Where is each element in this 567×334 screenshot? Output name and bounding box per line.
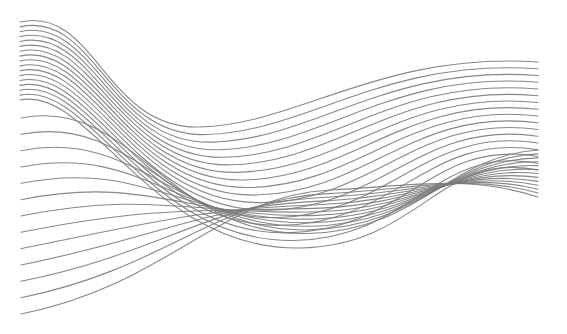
wave-line [20,20,538,127]
wave-line [21,147,538,226]
wave-line [21,178,538,248]
wave-line [20,55,538,180]
wave-line [20,89,538,233]
wave-lines-graphic [0,0,567,334]
wave-lines-group [20,20,538,314]
wave-line [21,183,538,314]
wave-line [20,25,538,134]
wave-artwork [0,0,567,334]
wave-line [20,35,538,150]
